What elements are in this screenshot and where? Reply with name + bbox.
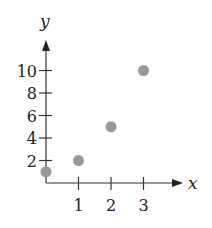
data-points	[41, 65, 150, 177]
scatter-chart: x y 123 246810	[0, 0, 212, 228]
data-point	[106, 121, 117, 132]
x-tick-label: 2	[106, 196, 116, 215]
y-tick-label: 6	[27, 107, 37, 126]
data-point	[138, 65, 149, 76]
x-axis-arrow-icon	[172, 179, 183, 187]
y-axis-label: y	[39, 11, 50, 31]
x-tick-label: 3	[138, 196, 148, 215]
y-ticks: 246810	[17, 62, 52, 171]
data-point	[73, 155, 84, 166]
x-axis-label: x	[188, 173, 198, 193]
y-tick-label: 10	[17, 62, 37, 81]
y-axis-arrow-icon	[42, 40, 50, 51]
axes: x y	[39, 11, 198, 193]
y-tick-label: 2	[27, 152, 37, 171]
y-tick-label: 4	[27, 129, 37, 148]
x-tick-label: 1	[73, 196, 83, 215]
y-tick-label: 8	[27, 84, 37, 103]
data-point	[41, 166, 52, 177]
